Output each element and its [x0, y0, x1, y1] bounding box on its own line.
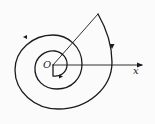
origin-label: O	[43, 60, 51, 70]
spiral-direction-arrow-icon	[23, 35, 27, 39]
spiral-diagram: O x	[0, 0, 155, 124]
x-axis-label: x	[133, 66, 139, 76]
spiral-figure	[0, 0, 155, 124]
ray-line	[53, 14, 98, 65]
spiral-curve	[15, 14, 112, 109]
